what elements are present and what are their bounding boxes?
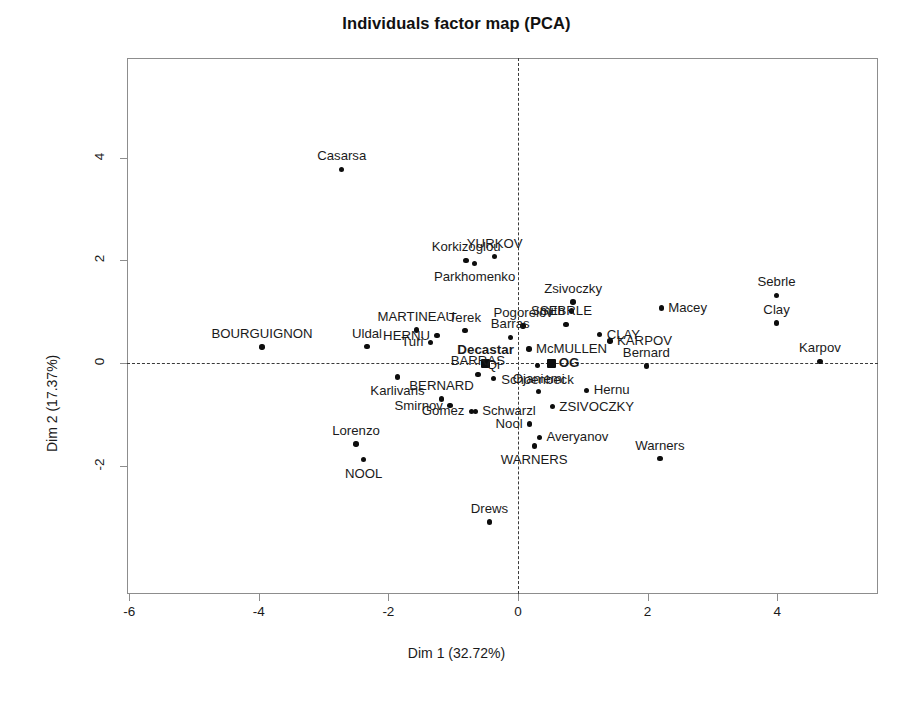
data-point — [508, 335, 513, 340]
data-point-label: BOURGUIGNON — [211, 327, 312, 340]
data-point-label: Hernu — [594, 384, 630, 397]
data-point-label: MARTINEAU — [378, 310, 455, 323]
x-axis-tick — [388, 594, 389, 601]
data-point — [817, 359, 822, 364]
x-axis-tick-label: 0 — [498, 604, 538, 619]
x-axis-tick — [648, 594, 649, 601]
data-point-label: BERNARD — [409, 379, 473, 392]
y-axis-tick-label: 2 — [92, 246, 107, 272]
data-point-label: Clay — [763, 303, 789, 316]
data-point-label: Barras — [491, 317, 530, 330]
data-point-label: Sebrle — [757, 275, 795, 288]
x-axis-tick-label: -2 — [368, 604, 408, 619]
data-point — [259, 344, 264, 349]
data-point-label: Casarsa — [317, 149, 366, 162]
data-point — [657, 456, 662, 461]
data-point-label: Ojaniemi — [513, 372, 565, 385]
data-point-label: Lorenzo — [332, 424, 380, 437]
data-point-label: Nool — [496, 417, 523, 430]
data-point-label: Karpov — [799, 341, 841, 354]
y-axis-tick-label: -2 — [92, 451, 107, 477]
x-axis-tick — [777, 594, 778, 601]
y-axis-tick — [120, 260, 127, 261]
data-point — [607, 338, 612, 343]
data-point — [463, 258, 468, 263]
data-point-label: Qi — [487, 358, 500, 371]
y-axis-tick — [120, 363, 127, 364]
data-point-label: ZSIVOCZKY — [559, 400, 634, 413]
data-point-label: Uldal — [352, 326, 382, 339]
data-point-label: SEBRLE — [540, 304, 592, 317]
data-point — [475, 372, 480, 377]
data-point — [774, 320, 779, 325]
data-point-label: Turi — [401, 336, 423, 349]
data-point — [644, 363, 649, 368]
y-axis-tick-label: 4 — [92, 143, 107, 169]
y-axis-label: Dim 2 (17.37%) — [44, 192, 60, 452]
data-point-label: WARNERS — [501, 453, 568, 466]
data-point-label: Bernard — [623, 346, 670, 359]
data-point — [532, 443, 537, 448]
data-point — [547, 359, 556, 368]
data-point — [473, 409, 478, 414]
y-axis-tick — [120, 466, 127, 467]
data-point-label: Warners — [635, 438, 684, 451]
x-axis-tick-label: -4 — [239, 604, 279, 619]
data-point-label: McMULLEN — [536, 343, 607, 356]
y-axis-tick-label: 0 — [92, 349, 107, 375]
data-point-label: OG — [559, 356, 580, 369]
pca-individuals-factor-map: Individuals factor map (PCA) -6-4-2024 4… — [0, 0, 913, 710]
y-axis-tick — [120, 158, 127, 159]
data-point-label: Terek — [449, 310, 481, 323]
data-point-label: Zsivoczky — [544, 282, 602, 295]
data-point — [364, 344, 369, 349]
x-axis-tick-label: -6 — [109, 604, 149, 619]
data-point — [659, 305, 664, 310]
x-axis-tick — [129, 594, 130, 601]
x-axis-tick — [259, 594, 260, 601]
data-point — [563, 322, 568, 327]
data-point — [395, 374, 400, 379]
x-axis-tick-label: 4 — [757, 604, 797, 619]
data-point — [526, 346, 531, 351]
data-point-label: Parkhomenko — [434, 270, 515, 283]
x-axis-tick — [518, 594, 519, 601]
data-point-label: Gomez — [422, 405, 465, 418]
data-point-label: Drews — [471, 502, 508, 515]
data-point — [353, 441, 358, 446]
page-title: Individuals factor map (PCA) — [0, 14, 913, 33]
data-point-label: YURKOV — [467, 237, 523, 250]
x-axis-label: Dim 1 (32.72%) — [0, 645, 913, 661]
x-axis-tick-label: 2 — [628, 604, 668, 619]
data-point — [487, 519, 492, 524]
data-point-label: NOOL — [345, 467, 382, 480]
data-point — [462, 328, 467, 333]
data-point-label: Averyanov — [546, 431, 608, 444]
data-point-label: Macey — [668, 301, 707, 314]
